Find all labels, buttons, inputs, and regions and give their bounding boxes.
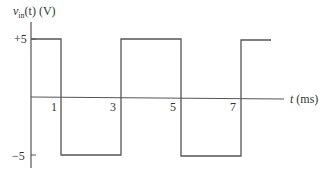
x-tick-label-1: 1	[51, 100, 57, 114]
x-axis	[31, 97, 284, 99]
x-tick-label-5: 5	[170, 100, 176, 114]
x-axis-label: t (ms)	[290, 92, 318, 106]
y-axis-label: vin(t) (V)	[13, 4, 56, 20]
square-wave-chart: vin(t) (V) +5 −5 1 3 5 7 t (ms)	[0, 0, 324, 176]
y-tick-label-plus5: +5	[14, 32, 27, 46]
y-tick-label-minus5: −5	[12, 149, 25, 163]
x-tick-label-3: 3	[110, 100, 116, 114]
x-tick-label-7: 7	[230, 100, 236, 114]
